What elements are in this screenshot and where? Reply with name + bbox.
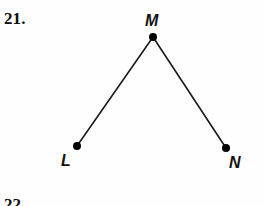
segment-ml bbox=[77, 37, 153, 146]
vertex-point-m bbox=[149, 33, 157, 41]
segment-mn bbox=[153, 37, 226, 148]
angle-figure bbox=[0, 0, 264, 206]
vertex-point-l bbox=[73, 142, 81, 150]
figure-screenshot: 21. M L N 22. bbox=[0, 0, 264, 206]
vertex-label-m: M bbox=[145, 12, 158, 29]
vertex-label-n: N bbox=[229, 154, 241, 171]
vertex-point-n bbox=[222, 144, 230, 152]
vertex-label-l: L bbox=[61, 152, 71, 169]
angle-lmn-svg bbox=[0, 0, 264, 206]
next-exercise-number: 22. bbox=[4, 195, 26, 206]
